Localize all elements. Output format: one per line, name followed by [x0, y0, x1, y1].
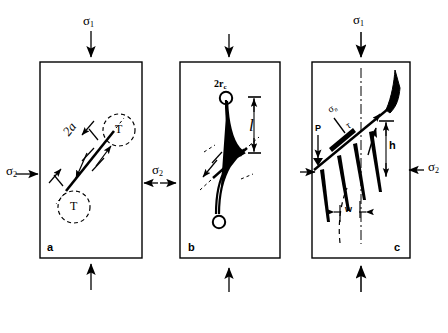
- sigma-subscript: 1: [360, 19, 364, 28]
- panel-c-right-sigma2-label: σ2: [428, 160, 439, 175]
- sigma-subscript: 2: [13, 170, 17, 179]
- panel-c-letter: c: [394, 242, 400, 253]
- panel-b-wing-crack: [216, 100, 244, 214]
- panel-c-load-arrow: [313, 135, 323, 166]
- panel-a-tensile-label-top: T: [115, 123, 122, 135]
- panel-c-sigma1-label: σ1: [353, 13, 364, 28]
- panel-c-tau-arrow: [0, 0, 380, 155]
- sigma-subscript: 1: [90, 20, 94, 29]
- panel-letter-text: a: [47, 241, 53, 253]
- panel-a-crack: [66, 131, 114, 191]
- panel-a-left-sigma2-label: σ2: [6, 164, 17, 179]
- height-text: h: [389, 139, 396, 151]
- panel-b-letter: b: [188, 242, 195, 253]
- sigma-glyph: σ: [83, 13, 90, 28]
- panel-c-height-label: h: [389, 140, 396, 151]
- panel-a-tensile-label-bottom: T: [70, 200, 77, 212]
- panel-letter-text: b: [188, 241, 195, 253]
- panel-a-letter: a: [47, 242, 53, 253]
- fracture-mechanics-figure: σ1 σ2 2a T T a σ2 2rc l b σ1 σ2 σn τ P h…: [0, 0, 448, 333]
- sigma-glyph: σ: [6, 163, 13, 178]
- panel-b-bottom-pore-circle: [213, 216, 225, 228]
- panel-c-load-label: P: [315, 124, 321, 133]
- panel-b-length-label: l: [249, 117, 254, 134]
- panel-ab-sigma2-label: σ2: [152, 163, 163, 178]
- sigma-glyph: σ: [428, 159, 435, 174]
- tensile-text: T: [70, 199, 77, 213]
- panel-letter-text: c: [394, 241, 400, 253]
- load-text: P: [315, 123, 321, 133]
- figure-canvas: [0, 0, 448, 333]
- tensile-text: T: [115, 122, 122, 136]
- panel-b-tip-radius-label: 2rc: [214, 79, 227, 91]
- sigma-glyph: σ: [152, 162, 159, 177]
- length-text: l: [249, 116, 254, 135]
- tip-radius-subscript: c: [223, 83, 226, 91]
- width-text: w: [345, 204, 352, 214]
- panel-a-sigma1-label: σ1: [83, 14, 94, 29]
- sigma-glyph: σ: [353, 12, 360, 27]
- sigma-subscript: 2: [159, 169, 163, 178]
- panel-c-width-label: w: [345, 205, 352, 214]
- sigma-subscript: 2: [435, 166, 439, 175]
